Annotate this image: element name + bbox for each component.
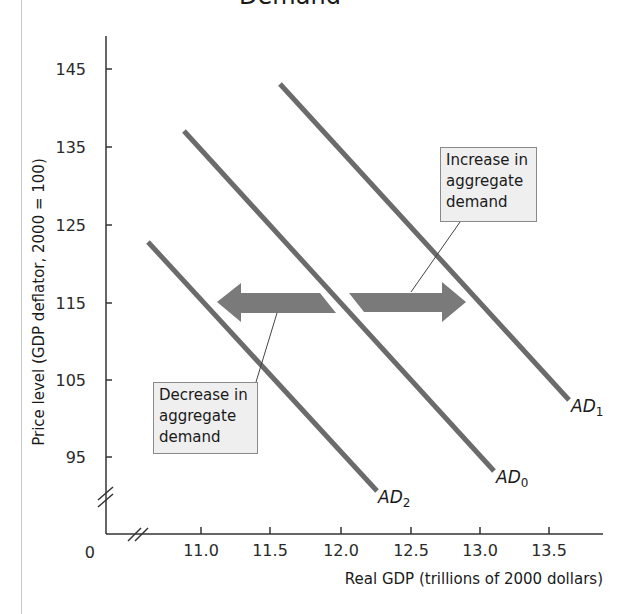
- annotation-line: aggregate: [159, 406, 253, 427]
- y-tick-label: 125: [55, 216, 86, 235]
- x-tick-label: 12.0: [323, 541, 359, 560]
- decrease-annotation-box: Decrease in aggregate demand: [153, 382, 258, 454]
- origin-label: 0: [85, 543, 95, 562]
- y-tick-label: 145: [55, 60, 86, 79]
- y-tick-label: 105: [55, 371, 86, 390]
- chart-canvas: 145 135 125 115 105 95 0 11.0 11.5 12.0 …: [0, 0, 631, 614]
- y-tick-labels: 145 135 125 115 105 95 0: [55, 60, 95, 562]
- increase-arrow-icon: [349, 282, 466, 322]
- annotation-line: Decrease in: [159, 385, 253, 406]
- x-axis-title: Real GDP (trillions of 2000 dollars): [345, 570, 603, 588]
- annotation-line: demand: [159, 427, 253, 448]
- x-tick-label: 11.5: [252, 541, 288, 560]
- x-tick-label: 13.5: [531, 541, 567, 560]
- x-axis: [106, 527, 603, 541]
- annotation-line: demand: [446, 192, 532, 213]
- ad1-label: AD1: [570, 396, 603, 419]
- y-tick-label: 95: [66, 448, 86, 467]
- x-tick-label: 11.0: [183, 541, 219, 560]
- ad2-label: AD2: [377, 487, 410, 510]
- x-tick-label: 13.0: [462, 541, 498, 560]
- ad0-label: AD0: [495, 467, 528, 490]
- y-axis-title: Price level (GDP deflator, 2000 = 100): [30, 158, 48, 446]
- annotation-line: aggregate: [446, 171, 532, 192]
- y-tick-label: 115: [55, 294, 86, 313]
- x-tick-label: 12.5: [393, 541, 429, 560]
- increase-annotation-box: Increase in aggregate demand: [440, 147, 537, 222]
- x-tick-labels: 11.0 11.5 12.0 12.5 13.0 13.5: [183, 541, 567, 560]
- y-tick-label: 135: [55, 138, 86, 157]
- y-axis: [98, 36, 113, 534]
- ad1-curve: [280, 84, 569, 400]
- annotation-line: Increase in: [446, 150, 532, 171]
